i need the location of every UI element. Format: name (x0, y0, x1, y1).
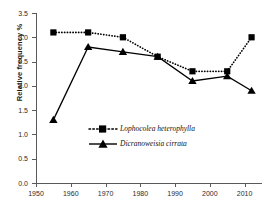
y-tick-label: 2.0 (4, 82, 28, 89)
series-dicranoweisia (49, 43, 256, 123)
y-tick-label: 3.0 (4, 34, 28, 41)
x-tick-label: 1950 (21, 190, 51, 197)
legend-item-dicranoweisia[interactable]: Dicranoweisia cirrata (88, 136, 195, 151)
x-tick-label: 1990 (160, 190, 190, 197)
legend-label-dicranoweisia: Dicranoweisia cirrata (120, 139, 187, 148)
x-tick-label: 2000 (195, 190, 225, 197)
x-tick-mark (140, 183, 141, 187)
data-point-triangle (49, 116, 57, 123)
y-tick-label: 1.0 (4, 131, 28, 138)
y-tick-label: 2.5 (4, 58, 28, 65)
data-point-square (85, 29, 91, 35)
x-tick-label: 1980 (125, 190, 155, 197)
x-tick-mark (210, 183, 211, 187)
y-tick-label: 0.5 (4, 155, 28, 162)
data-point-triangle (84, 43, 92, 50)
plot-area (36, 13, 262, 183)
legend-marker-square-dotted (88, 123, 118, 135)
legend-item-lophocolea[interactable]: Lophocolea heterophylla (88, 121, 195, 136)
y-tick-label: 0.0 (4, 180, 28, 187)
series-line (53, 47, 251, 120)
chart-legend: Lophocolea heterophylla Dicranoweisia ci… (88, 121, 195, 151)
data-point-square (248, 34, 254, 40)
data-point-triangle (247, 87, 255, 94)
x-tick-mark (245, 183, 246, 187)
x-tick-mark (175, 183, 176, 187)
x-tick-mark (106, 183, 107, 187)
x-tick-label: 2010 (230, 190, 260, 197)
x-tick-mark (71, 183, 72, 187)
y-tick-label: 1.5 (4, 107, 28, 114)
x-tick-label: 1960 (56, 190, 86, 197)
data-point-square (120, 34, 126, 40)
chart-container: Relative frequency % 0.00.51.01.52.02.53… (0, 0, 270, 206)
data-point-square (50, 29, 56, 35)
x-tick-mark (36, 183, 37, 187)
series-line (53, 32, 251, 71)
cropped-header-text (6, 0, 256, 6)
series-lophocolea (50, 29, 254, 74)
legend-label-lophocolea: Lophocolea heterophylla (120, 124, 195, 133)
y-tick-label: 3.5 (4, 10, 28, 17)
x-tick-label: 1970 (91, 190, 121, 197)
legend-marker-triangle-solid (88, 138, 118, 150)
data-point-square (189, 68, 195, 74)
